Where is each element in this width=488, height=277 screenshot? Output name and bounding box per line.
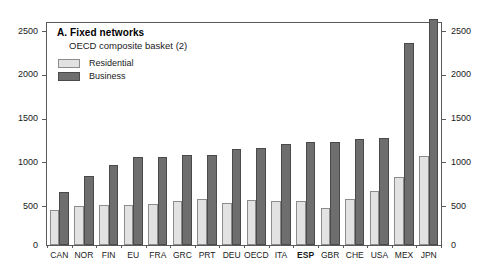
- x-axis-tickmark-oecd: [269, 245, 270, 248]
- x-axis-label-che: CHE: [343, 250, 368, 261]
- y-axis-right-tickmark-1000: [442, 162, 446, 163]
- bar-residential-can: [50, 210, 60, 245]
- y-axis-left-tick-0: 0: [33, 241, 38, 250]
- y-axis-right-tickmark-2000: [442, 75, 446, 76]
- x-axis-tickmark-mex: [416, 245, 417, 248]
- y-axis-right-tick-2500: 2500: [451, 27, 471, 36]
- bar-residential-gbr: [321, 208, 331, 245]
- chart-legend: Residential Business: [58, 57, 134, 83]
- bar-business-prt: [207, 155, 217, 245]
- bar-residential-deu: [222, 203, 232, 245]
- y-axis-right-tickmark-2500: [442, 31, 446, 32]
- bar-residential-che: [345, 199, 355, 245]
- x-axis-labels: CANNORFINEUFRAGRCPRTDEUOECDITAESPGBRCHEU…: [47, 250, 441, 264]
- y-axis-right-tickmark-500: [442, 206, 446, 207]
- bar-business-che: [355, 139, 365, 245]
- x-axis-label-fin: FIN: [96, 250, 121, 261]
- y-axis-right-tick-1000: 1000: [451, 158, 471, 167]
- bar-business-fin: [109, 165, 119, 245]
- x-axis-tickmark-deu: [244, 245, 245, 248]
- y-axis-left-tick-2500: 2500: [18, 27, 38, 36]
- x-axis-tickmark-grc: [195, 245, 196, 248]
- x-axis-label-fra: FRA: [146, 250, 171, 261]
- legend-label-residential: Residential: [89, 58, 134, 68]
- chart-title-block: A. Fixed networks OECD composite basket …: [57, 27, 317, 52]
- bar-business-usa: [379, 138, 389, 245]
- x-axis-tickmark-nor: [96, 245, 97, 248]
- chart-title: A. Fixed networks: [57, 27, 317, 39]
- y-axis-left-tick-2000: 2000: [18, 70, 38, 79]
- y-axis-right-tick-1500: 1500: [451, 114, 471, 123]
- bar-business-can: [59, 192, 69, 245]
- bar-business-jpn: [429, 19, 439, 245]
- bar-business-gbr: [330, 142, 340, 245]
- bar-business-eu: [133, 157, 143, 245]
- chart-subtitle: OECD composite basket (2): [69, 40, 317, 52]
- y-axis-left-tick-500: 500: [23, 202, 38, 211]
- bar-residential-esp: [296, 201, 306, 245]
- x-axis-label-ita: ITA: [269, 250, 294, 261]
- x-axis-tickmark-prt: [219, 245, 220, 248]
- bar-residential-fra: [148, 204, 158, 245]
- legend-item-residential: Residential: [58, 57, 134, 69]
- x-axis-tickmark-fra: [170, 245, 171, 248]
- bar-residential-prt: [197, 199, 207, 245]
- x-axis-label-grc: GRC: [170, 250, 195, 261]
- x-axis-tickmark-esp: [318, 245, 319, 248]
- x-axis-tickmark-ita: [293, 245, 294, 248]
- y-axis-left: 2500 2000 1500 1000 500 0: [0, 0, 42, 277]
- x-axis-label-deu: DEU: [219, 250, 244, 261]
- bar-business-mex: [404, 43, 414, 245]
- x-axis-tickmark-usa: [392, 245, 393, 248]
- x-axis-tickmark-eu: [146, 245, 147, 248]
- y-axis-right-tick-0: 0: [451, 241, 456, 250]
- x-axis-tickmark-che: [367, 245, 368, 248]
- bar-business-deu: [232, 149, 242, 245]
- legend-item-business: Business: [58, 70, 134, 82]
- x-axis-tickmark-origin: [47, 245, 48, 248]
- bar-residential-usa: [370, 191, 380, 245]
- bar-business-nor: [84, 176, 94, 245]
- x-axis-tickmark-can: [72, 245, 73, 248]
- bar-residential-jpn: [419, 156, 429, 245]
- bar-business-oecd: [256, 148, 266, 245]
- y-axis-right: 2500 2000 1500 1000 500 0: [446, 0, 488, 277]
- y-axis-left-tick-1500: 1500: [18, 114, 38, 123]
- bar-residential-fin: [99, 205, 109, 245]
- bar-residential-ita: [271, 201, 281, 245]
- bar-residential-grc: [173, 201, 183, 245]
- x-axis-label-gbr: GBR: [318, 250, 343, 261]
- bar-residential-nor: [74, 206, 84, 245]
- legend-label-business: Business: [89, 71, 126, 81]
- x-axis-label-can: CAN: [47, 250, 72, 261]
- bar-residential-eu: [124, 205, 134, 245]
- x-axis-label-oecd: OECD: [244, 250, 269, 261]
- y-axis-right-tick-2000: 2000: [451, 70, 471, 79]
- x-axis-label-mex: MEX: [392, 250, 417, 261]
- legend-swatch-residential-icon: [58, 59, 80, 68]
- x-axis-tickmark-gbr: [343, 245, 344, 248]
- x-axis-label-jpn: JPN: [416, 250, 441, 261]
- bar-residential-mex: [394, 177, 404, 245]
- x-axis-label-nor: NOR: [72, 250, 97, 261]
- y-axis-right-tick-500: 500: [451, 202, 466, 211]
- y-axis-right-tickmark-1500: [442, 119, 446, 120]
- bar-business-grc: [182, 155, 192, 245]
- bar-residential-oecd: [247, 200, 257, 245]
- chart-panel-fixed-networks: 2500 2000 1500 1000 500 0 2500 2000 1500…: [0, 0, 488, 277]
- bar-business-ita: [281, 144, 291, 245]
- y-axis-left-tick-1000: 1000: [18, 158, 38, 167]
- legend-swatch-business-icon: [58, 72, 80, 81]
- x-axis-label-eu: EU: [121, 250, 146, 261]
- x-axis-label-esp: ESP: [293, 250, 318, 261]
- x-axis-label-usa: USA: [367, 250, 392, 261]
- bar-business-esp: [306, 142, 316, 245]
- x-axis-tickmark-fin: [121, 245, 122, 248]
- x-axis-label-prt: PRT: [195, 250, 220, 261]
- x-axis-tickmark-jpn: [441, 245, 442, 248]
- bar-business-fra: [158, 157, 168, 245]
